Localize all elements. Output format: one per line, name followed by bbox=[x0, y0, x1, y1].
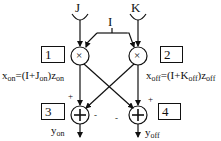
equation-x-on: xon=(I+Jon)zon bbox=[2, 70, 64, 83]
input-i-label: I bbox=[108, 15, 112, 28]
output-y-off: yoff bbox=[145, 127, 160, 140]
multiply-symbol-right: × bbox=[134, 50, 140, 61]
sign-plus-right: + bbox=[148, 95, 153, 104]
box-2: 2 bbox=[160, 46, 183, 63]
gated-dipole-diagram: J K I × × 1 2 3 4 xon=(I+Jon)zon xoff=(I… bbox=[0, 0, 221, 141]
box-1: 1 bbox=[41, 46, 65, 63]
sign-plus-left: + bbox=[68, 92, 73, 101]
box-3: 3 bbox=[41, 103, 65, 120]
sign-minus-left: - bbox=[94, 111, 97, 120]
sign-minus-right: - bbox=[115, 114, 118, 123]
input-k-label: K bbox=[131, 1, 140, 14]
equation-x-off: xoff=(I+Koff)zoff bbox=[146, 70, 215, 83]
multiply-symbol-left: × bbox=[76, 50, 82, 61]
output-y-on: yon bbox=[51, 125, 65, 138]
input-j-label: J bbox=[75, 1, 80, 14]
box-4: 4 bbox=[158, 103, 181, 120]
